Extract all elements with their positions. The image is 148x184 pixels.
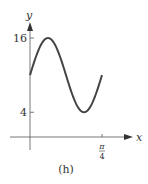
x-axis-label: x [136, 131, 143, 144]
x-tick-label-denominator: 4 [99, 152, 104, 161]
x-axis-arrow [124, 134, 133, 140]
y-tick-label-16: 16 [13, 32, 27, 45]
y-axis-label: y [25, 9, 33, 22]
y-axis-arrow [27, 22, 33, 31]
chart: x y 16 4 π 4 (h) [0, 0, 148, 184]
series-curve [30, 38, 102, 112]
x-tick-label-numerator: π [98, 142, 105, 151]
figure-caption: (h) [58, 163, 74, 176]
y-tick-label-4: 4 [20, 106, 27, 119]
